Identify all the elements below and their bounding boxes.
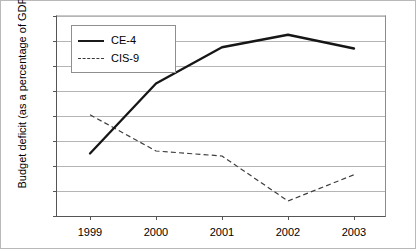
legend-label-cis-9: CIS-9 <box>111 53 139 64</box>
legend-item-ce-4: CE-4 <box>78 31 169 49</box>
y-axis-title: Budget deficit (as a percentage of GDP) <box>14 0 30 196</box>
legend-swatch-dashed-icon <box>78 53 104 63</box>
chart-figure: Budget deficit (as a percentage of GDP) … <box>0 0 416 249</box>
series-line-cis-9 <box>90 115 354 201</box>
plot-area: 0.0 -1.0 -2.0 -3.0 -4.0 -5.0 -6.0 -7.0 -… <box>56 15 386 217</box>
legend-label-ce-4: CE-4 <box>111 35 136 46</box>
legend: CE-4 CIS-9 <box>71 25 176 73</box>
legend-swatch-solid-icon <box>78 35 104 45</box>
x-tick-label-2001: 2001 <box>192 226 252 238</box>
x-tick-label-2003: 2003 <box>324 226 384 238</box>
x-tick-label-1999: 1999 <box>60 226 120 238</box>
x-tick-label-2000: 2000 <box>126 226 186 238</box>
x-tick-label-2002: 2002 <box>258 226 318 238</box>
legend-item-cis-9: CIS-9 <box>78 49 169 67</box>
